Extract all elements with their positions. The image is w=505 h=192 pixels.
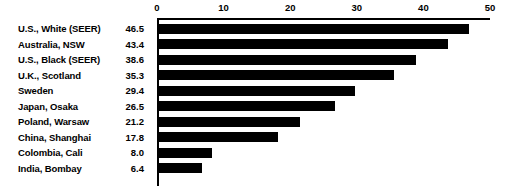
- data-value-label: 29.4: [126, 86, 145, 96]
- chart-row-label: Australia, NSW43.4: [0, 37, 150, 53]
- x-tick-label: 0: [154, 3, 159, 13]
- chart-row-label: U.S., White (SEER)46.5: [0, 21, 150, 37]
- bar: [159, 24, 469, 34]
- category-label: Colombia, Cali: [18, 148, 83, 158]
- category-label: U.S., White (SEER): [18, 24, 101, 34]
- bar-row: [159, 37, 505, 53]
- data-value-label: 8.0: [131, 148, 144, 158]
- category-label-column: U.S., White (SEER)46.5Australia, NSW43.4…: [0, 21, 150, 176]
- chart-row-label: China, Shanghai17.8: [0, 130, 150, 146]
- x-axis-line: [157, 18, 490, 20]
- chart-row-label: U.K., Scotland35.3: [0, 68, 150, 84]
- bar-row: [159, 83, 505, 99]
- bar: [159, 86, 355, 96]
- bar: [159, 101, 335, 111]
- x-tick-label: 20: [285, 3, 296, 13]
- chart-row-label: Colombia, Cali8.0: [0, 145, 150, 161]
- category-label: India, Bombay: [18, 164, 82, 174]
- data-value-label: 38.6: [126, 55, 145, 65]
- data-value-label: 46.5: [126, 24, 145, 34]
- bar-chart: U.S., White (SEER)46.5Australia, NSW43.4…: [0, 0, 505, 192]
- bar: [159, 163, 202, 173]
- x-tick-label: 10: [218, 3, 229, 13]
- chart-row-label: U.S., Black (SEER)38.6: [0, 52, 150, 68]
- x-tick-label: 50: [485, 3, 496, 13]
- data-value-label: 43.4: [126, 40, 145, 50]
- bar-series: [159, 21, 505, 176]
- bar: [159, 70, 394, 80]
- category-label: U.S., Black (SEER): [18, 55, 100, 65]
- chart-row-label: India, Bombay6.4: [0, 161, 150, 177]
- bar: [159, 148, 212, 158]
- bar: [159, 39, 448, 49]
- data-value-label: 21.2: [126, 117, 145, 127]
- category-label: China, Shanghai: [18, 133, 91, 143]
- chart-row-label: Japan, Osaka26.5: [0, 99, 150, 115]
- category-label: Sweden: [18, 86, 53, 96]
- bar-row: [159, 68, 505, 84]
- chart-row-label: Sweden29.4: [0, 83, 150, 99]
- bar: [159, 132, 278, 142]
- data-value-label: 35.3: [126, 71, 145, 81]
- bar-row: [159, 52, 505, 68]
- x-axis-tick-labels: 01020304050: [157, 3, 490, 16]
- bar-row: [159, 145, 505, 161]
- plot-area: 01020304050: [157, 0, 505, 192]
- x-tick-label: 40: [418, 3, 429, 13]
- bar-row: [159, 99, 505, 115]
- bar-row: [159, 21, 505, 37]
- bar-row: [159, 161, 505, 177]
- data-value-label: 6.4: [131, 164, 144, 174]
- data-value-label: 26.5: [126, 102, 145, 112]
- x-tick-label: 30: [352, 3, 363, 13]
- bar-row: [159, 114, 505, 130]
- category-label: U.K., Scotland: [18, 71, 81, 81]
- bar-row: [159, 130, 505, 146]
- chart-row-label: Poland, Warsaw21.2: [0, 114, 150, 130]
- category-label: Japan, Osaka: [18, 102, 78, 112]
- category-label: Australia, NSW: [18, 40, 85, 50]
- data-value-label: 17.8: [126, 133, 145, 143]
- bar: [159, 117, 300, 127]
- category-label: Poland, Warsaw: [18, 117, 89, 127]
- bar: [159, 55, 416, 65]
